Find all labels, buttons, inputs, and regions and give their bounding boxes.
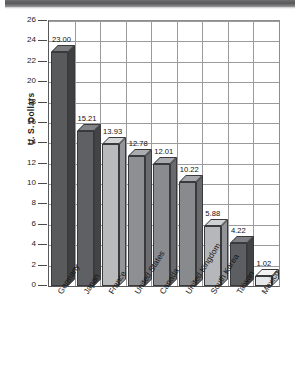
y-tick-mark [38,142,47,143]
y-tick-label: 4 [18,239,36,248]
y-tick-mark [38,265,47,266]
y-tick-mark [38,20,47,21]
y-tick-mark [38,203,47,204]
bar-chart: U. S. Dollars 02468101214161820222426 23… [0,9,295,378]
gridline-horizontal [49,103,279,104]
y-tick-mark [38,81,47,82]
y-tick-label: 16 [18,116,36,125]
bar-value-label: 10.22 [180,165,199,174]
y-tick-label: 8 [18,198,36,207]
y-tick-mark [38,61,47,62]
y-tick-mark [38,102,47,103]
bar [102,144,119,286]
y-tick-label: 6 [18,218,36,227]
y-tick-label: 24 [18,35,36,44]
y-tick-label: 14 [18,137,36,146]
bar-value-label: 12.78 [129,139,148,148]
bar [51,52,68,286]
y-tick-label: 26 [18,15,36,24]
scan-artifact-band [5,0,295,7]
plot-area: 23.0015.2113.9312.7812.0110.225.884.221.… [48,20,280,287]
y-tick-mark [38,285,47,286]
bar-value-label: 12.01 [154,147,173,156]
bar-front-face [51,52,68,286]
y-tick-mark [38,122,47,123]
y-tick-mark [38,163,47,164]
bar-value-label: 15.21 [78,114,97,123]
y-tick-label: 20 [18,76,36,85]
bar-side-face [119,137,126,286]
gridline-vertical [228,21,229,286]
gridline-horizontal [49,21,279,22]
bar-value-label: 5.88 [205,209,220,218]
y-tick-label: 12 [18,157,36,166]
gridline-horizontal [49,41,279,42]
gridline-horizontal [49,82,279,83]
y-tick-mark [38,40,47,41]
bar [77,131,94,286]
bar-front-face [128,156,145,286]
y-tick-label: 18 [18,96,36,105]
bar-front-face [77,131,94,286]
y-tick-mark [38,244,47,245]
bar-value-label: 23.00 [52,35,71,44]
bar-front-face [102,144,119,286]
bar [128,156,145,286]
y-tick-mark [38,183,47,184]
bar-value-label: 1.02 [256,259,271,268]
gridline-horizontal [49,62,279,63]
y-tick-label: 10 [18,178,36,187]
bar-side-face [68,45,75,286]
y-tick-label: 2 [18,259,36,268]
y-tick-mark [38,224,47,225]
y-tick-label: 0 [18,280,36,289]
y-tick-label: 22 [18,55,36,64]
bar-side-face [94,124,101,286]
bar-value-label: 13.93 [103,127,122,136]
bar-value-label: 4.22 [231,226,246,235]
